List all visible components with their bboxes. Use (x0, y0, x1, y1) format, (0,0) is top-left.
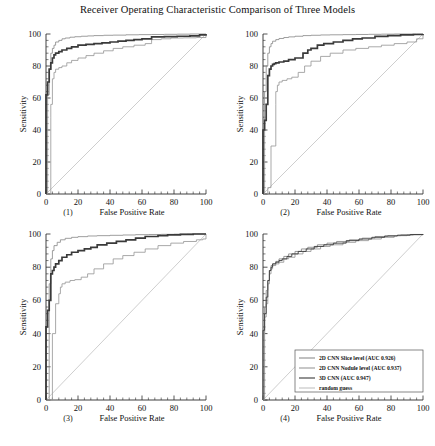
roc-panel-1: 020406080100020406080100False Positive R… (0, 26, 218, 226)
x-axis-label: False Positive Rate (99, 207, 164, 217)
roc-plot-2: 020406080100020406080100False Positive R… (217, 26, 435, 226)
y-tick-label: 60 (33, 93, 42, 103)
y-tick-label: 40 (33, 329, 42, 339)
y-tick-label: 0 (37, 395, 41, 405)
x-tick-label: 80 (387, 403, 396, 413)
x-tick-label: 60 (355, 403, 364, 413)
legend-label: random guess (319, 385, 353, 391)
y-tick-label: 0 (254, 395, 258, 405)
legend-label: 2D CNN Nodule level (AUC 0.937) (319, 365, 401, 372)
x-tick-label: 100 (417, 197, 430, 207)
roc-panel-4: 020406080100020406080100False Positive R… (217, 224, 435, 434)
x-tick-label: 20 (291, 403, 300, 413)
panel-index-label: (3) (63, 414, 73, 423)
panel-index-label: (2) (280, 208, 290, 217)
x-tick-label: 80 (387, 197, 396, 207)
legend-label: 2D CNN Slice level (AUC 0.926) (319, 355, 396, 362)
x-tick-label: 80 (170, 403, 179, 413)
y-tick-label: 60 (250, 295, 259, 305)
y-tick-label: 0 (254, 189, 258, 199)
y-axis-label: Sensitivity (18, 95, 28, 132)
random-guess-line (46, 34, 206, 194)
y-tick-label: 100 (28, 229, 41, 239)
roc-figure: Receiver Operating Characteristic Compar… (0, 0, 435, 446)
x-tick-label: 20 (74, 197, 83, 207)
y-tick-label: 80 (250, 61, 259, 71)
y-tick-label: 40 (250, 329, 259, 339)
y-axis-label: Sensitivity (235, 95, 245, 132)
y-tick-label: 20 (250, 157, 259, 167)
roc-panel-2: 020406080100020406080100False Positive R… (217, 26, 435, 226)
random-guess-line (46, 234, 206, 400)
x-tick-label: 60 (138, 197, 147, 207)
y-tick-label: 80 (250, 262, 259, 272)
y-tick-label: 100 (28, 29, 41, 39)
y-tick-label: 60 (250, 93, 259, 103)
x-tick-label: 40 (106, 403, 115, 413)
y-tick-label: 20 (250, 362, 259, 372)
y-tick-label: 20 (33, 157, 42, 167)
x-tick-label: 0 (44, 403, 48, 413)
y-axis-label: Sensitivity (18, 298, 28, 335)
x-tick-label: 40 (106, 197, 115, 207)
x-tick-label: 80 (170, 197, 179, 207)
legend: 2D CNN Slice level (AUC 0.926)2D CNN Nod… (295, 350, 423, 392)
legend-label: 3D CNN (AUC 0.947) (319, 375, 371, 382)
x-tick-label: 20 (74, 403, 83, 413)
roc-plot-3: 020406080100020406080100False Positive R… (0, 224, 218, 434)
y-tick-label: 80 (33, 61, 42, 71)
roc-plot-4: 020406080100020406080100False Positive R… (217, 224, 435, 434)
y-tick-label: 60 (33, 295, 42, 305)
y-tick-label: 100 (245, 29, 258, 39)
x-tick-label: 60 (138, 403, 147, 413)
x-tick-label: 100 (417, 403, 430, 413)
x-tick-label: 20 (291, 197, 300, 207)
x-tick-label: 60 (355, 197, 364, 207)
x-axis-label: False Positive Rate (316, 207, 381, 217)
x-axis-label: False Positive Rate (99, 413, 164, 423)
x-tick-label: 0 (44, 197, 48, 207)
y-axis-label: Sensitivity (235, 298, 245, 335)
x-tick-label: 0 (261, 197, 265, 207)
x-tick-label: 40 (323, 403, 332, 413)
y-tick-label: 0 (37, 189, 41, 199)
x-tick-label: 40 (323, 197, 332, 207)
panel-index-label: (4) (280, 414, 290, 423)
y-tick-label: 20 (33, 362, 42, 372)
roc-panel-3: 020406080100020406080100False Positive R… (0, 224, 218, 434)
x-tick-label: 0 (261, 403, 265, 413)
y-tick-label: 100 (245, 229, 258, 239)
x-tick-label: 100 (200, 403, 213, 413)
panel-index-label: (1) (63, 208, 73, 217)
roc-plot-1: 020406080100020406080100False Positive R… (0, 26, 218, 226)
figure-title: Receiver Operating Characteristic Compar… (0, 4, 435, 15)
y-tick-label: 80 (33, 262, 42, 272)
y-tick-label: 40 (33, 125, 42, 135)
x-axis-label: False Positive Rate (316, 413, 381, 423)
y-tick-label: 40 (250, 125, 259, 135)
x-tick-label: 100 (200, 197, 213, 207)
random-guess-line (263, 34, 423, 194)
